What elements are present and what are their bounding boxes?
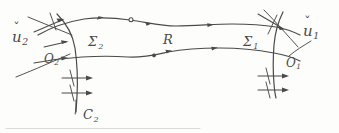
neighborhood-right-base: O bbox=[286, 56, 296, 70]
section-left-subscript: 2 bbox=[98, 42, 104, 51]
caron-accent-left: ˇ bbox=[13, 22, 19, 35]
region-base: R bbox=[163, 32, 173, 47]
label-neighborhood-right: O1 bbox=[286, 57, 301, 71]
label-chart-left: ˇ u 2 bbox=[12, 30, 28, 46]
section-left-base: Σ bbox=[88, 34, 98, 49]
chart-right-subscript: 1 bbox=[313, 30, 319, 41]
label-region: R bbox=[163, 33, 173, 46]
section-right-subscript: 1 bbox=[253, 42, 259, 51]
caron-wrap-right: ˇ u bbox=[303, 24, 313, 39]
label-chart-right: ˇ u 1 bbox=[303, 24, 319, 40]
section-right-base: Σ bbox=[243, 34, 253, 49]
label-section-right: Σ1 bbox=[243, 35, 259, 51]
chart-left-subscript: 2 bbox=[22, 36, 28, 47]
caron-accent-right: ˇ bbox=[304, 16, 310, 29]
label-section-left: Σ2 bbox=[88, 35, 104, 51]
left-cross-section-arc bbox=[57, 14, 77, 112]
curve-bottom-base: C bbox=[83, 107, 93, 122]
label-neighborhood-left: O2 bbox=[44, 53, 59, 67]
neighborhood-right-subscript: 1 bbox=[296, 62, 301, 71]
curve-bottom-subscript: 2 bbox=[93, 115, 99, 124]
handdrawn-diagram-figure: .ink { fill: none; stroke: #4a4a4a; stro… bbox=[0, 0, 339, 133]
label-curve-bottom: C2 bbox=[83, 108, 99, 124]
neighborhood-left-base: O bbox=[44, 52, 54, 66]
caron-wrap-left: ˇ u bbox=[12, 30, 22, 45]
neighborhood-left-subscript: 2 bbox=[54, 58, 59, 67]
